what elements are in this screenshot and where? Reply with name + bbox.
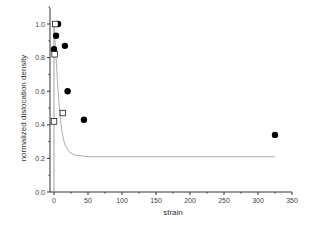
y-tick-label: 0.2 [35,155,45,162]
x-tick-label: 0 [52,197,56,204]
data-point-circle [62,43,68,49]
x-tick-label: 100 [116,197,128,204]
y-axis-label: normalized dislocation density [19,55,28,162]
data-point-square [52,51,58,57]
fit-curve [54,24,275,157]
data-point-circle [53,33,59,39]
plot-area [51,21,278,192]
x-tick-label: 50 [84,197,92,204]
y-tick-label: 0.6 [35,88,45,95]
x-tick-label: 350 [286,197,298,204]
y-tick-label: 0.0 [35,189,45,196]
axes: 0.00.20.40.60.81.0050100150200250300350 [35,7,298,204]
y-tick-label: 0.8 [35,54,45,61]
data-point-circle [272,132,278,138]
x-tick-label: 250 [218,197,230,204]
x-axis-label: strain [163,208,183,217]
data-point-square [60,110,66,116]
x-tick-label: 200 [184,197,196,204]
x-tick-label: 300 [252,197,264,204]
x-tick-label: 150 [150,197,162,204]
scatter-chart: 0.00.20.40.60.81.0050100150200250300350 … [0,0,313,227]
y-tick-label: 0.4 [35,121,45,128]
data-point-circle [81,117,87,123]
y-tick-label: 1.0 [35,21,45,28]
data-point-square [53,21,59,27]
data-point-square [51,119,57,125]
data-point-circle [64,88,70,94]
